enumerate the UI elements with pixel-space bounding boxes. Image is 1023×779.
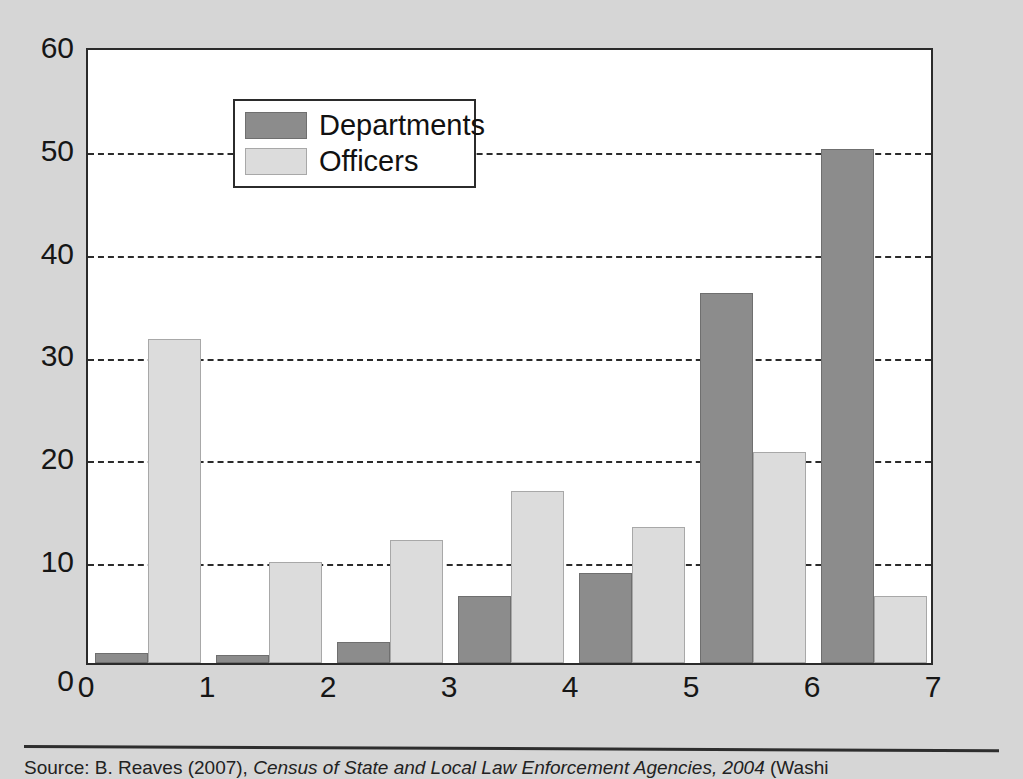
x-tick-2: 2 [298, 672, 358, 702]
bar-departments-1[interactable] [95, 653, 148, 663]
x-tick-0: 0 [56, 672, 116, 702]
x-tick-4: 4 [540, 672, 600, 702]
bar-officers-1[interactable] [148, 339, 201, 663]
source-suffix: (Washi [765, 757, 829, 778]
legend-label-officers: Officers [319, 147, 418, 176]
y-tick-10: 10 [16, 547, 74, 577]
legend-entry-departments: Departments [245, 107, 466, 143]
y-axis-tick-labels: 60 50 40 30 20 10 0 [12, 0, 74, 776]
y-tick-40: 40 [16, 239, 74, 269]
bar-officers-6[interactable] [753, 452, 806, 663]
bar-officers-2[interactable] [269, 562, 322, 663]
bar-departments-7[interactable] [821, 149, 874, 663]
bar-departments-4[interactable] [458, 596, 511, 663]
footer-divider [24, 745, 999, 752]
bar-officers-3[interactable] [390, 540, 443, 663]
dark-gray-swatch [245, 112, 307, 139]
bar-departments-6[interactable] [700, 293, 753, 663]
x-tick-3: 3 [419, 672, 479, 702]
x-tick-6: 6 [782, 672, 842, 702]
chart-legend: Departments Officers [233, 99, 476, 188]
bar-group-container [88, 50, 931, 663]
source-note: Source: B. Reaves (2007), Census of Stat… [24, 757, 1014, 779]
bar-officers-7[interactable] [874, 596, 927, 663]
legend-label-departments: Departments [319, 111, 485, 140]
x-tick-7: 7 [903, 672, 963, 702]
y-tick-60: 60 [16, 33, 74, 63]
light-gray-swatch [245, 148, 307, 175]
x-tick-5: 5 [661, 672, 721, 702]
bar-departments-3[interactable] [337, 642, 390, 663]
source-prefix: Source: B. Reaves (2007), [24, 757, 253, 778]
legend-entry-officers: Officers [245, 143, 466, 179]
y-tick-50: 50 [16, 136, 74, 166]
bar-officers-5[interactable] [632, 527, 685, 663]
plot-area: Departments Officers [86, 48, 933, 665]
bar-departments-2[interactable] [216, 655, 269, 663]
x-axis-tick-labels: 0 1 2 3 4 5 6 7 [86, 672, 933, 716]
y-tick-30: 30 [16, 341, 74, 371]
bar-officers-4[interactable] [511, 491, 564, 663]
source-title: Census of State and Local Law Enforcemen… [253, 757, 765, 778]
x-tick-1: 1 [177, 672, 237, 702]
bar-departments-5[interactable] [579, 573, 632, 664]
y-tick-20: 20 [16, 444, 74, 474]
